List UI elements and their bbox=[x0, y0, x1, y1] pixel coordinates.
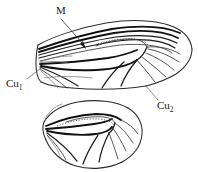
hindwing-inner-margin bbox=[46, 140, 122, 168]
label-cu2-group: Cu2 bbox=[146, 86, 174, 114]
label-cu2-leader-line bbox=[146, 86, 158, 100]
hindwing-vein-rs bbox=[121, 120, 138, 134]
hindwing-vein-m3 bbox=[109, 133, 118, 159]
label-cu2-subscript: 2 bbox=[170, 105, 174, 114]
label-cu1-leader-line bbox=[27, 68, 41, 79]
label-cu1-base: Cu bbox=[6, 77, 19, 89]
forewing-vein-m1 bbox=[146, 53, 174, 70]
hindwing-vein-a1 bbox=[47, 133, 77, 161]
hindwing-base bbox=[43, 122, 46, 140]
forewing-media-stem bbox=[40, 50, 137, 64]
forewing-discocellular-vein bbox=[137, 47, 147, 60]
forewing-outer-margin bbox=[146, 49, 192, 86]
label-cu2-base: Cu bbox=[157, 99, 170, 111]
label-cu2-text: Cu2 bbox=[157, 99, 174, 114]
label-m-text: M bbox=[56, 4, 66, 16]
forewing-group bbox=[36, 21, 192, 89]
forewing-inner-margin bbox=[41, 82, 146, 89]
hindwing-costal-margin bbox=[44, 101, 128, 122]
wing-venation-drawing: M Cu1 Cu2 bbox=[0, 0, 198, 172]
hindwing-group bbox=[43, 101, 142, 169]
hindwing-outer-margin bbox=[122, 108, 142, 162]
label-cu1-text: Cu1 bbox=[6, 77, 23, 92]
label-cu1-subscript: 1 bbox=[19, 83, 23, 92]
label-cu1-group: Cu1 bbox=[6, 68, 41, 92]
forewing-vein-m2 bbox=[142, 57, 166, 77]
forewing-fold-line bbox=[44, 77, 92, 79]
forewing-vein-m3 bbox=[137, 60, 155, 82]
wing-venation-figure: M Cu1 Cu2 bbox=[0, 0, 198, 172]
forewing-vein-a2 bbox=[40, 69, 67, 88]
hindwing-vein-cu1 bbox=[99, 133, 109, 162]
hindwing-vein-cu2 bbox=[83, 135, 98, 164]
